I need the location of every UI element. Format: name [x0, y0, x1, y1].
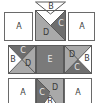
- label-d: D: [25, 60, 31, 68]
- label-c: C: [74, 64, 80, 72]
- label-a: A: [75, 89, 80, 97]
- label-c: C: [58, 20, 64, 28]
- square-a-bottom-right: A: [64, 78, 92, 103]
- hourglass-block-middle-right: D B C: [64, 45, 92, 74]
- label-b: B: [48, 3, 54, 11]
- square-a-bottom-left: A: [8, 78, 36, 103]
- label-e: E: [47, 56, 52, 64]
- label-b: B: [84, 55, 90, 63]
- label-c: C: [20, 47, 26, 55]
- label-b: B: [10, 56, 16, 64]
- square-a-top-left: A: [4, 12, 33, 41]
- label-a: A: [16, 23, 21, 31]
- label-a: A: [20, 89, 25, 97]
- hourglass-block-middle-left: C B D: [8, 45, 36, 74]
- label-d: D: [52, 84, 58, 92]
- label-d: D: [69, 51, 75, 59]
- label-b: B: [47, 98, 53, 103]
- square-a-top-right: A: [68, 12, 95, 41]
- triangle-block-top-center: B C D: [35, 1, 66, 41]
- square-e-center: E: [36, 45, 64, 74]
- label-c: C: [39, 89, 45, 97]
- triangle-block-bottom-center: C D B: [36, 78, 64, 103]
- label-d: D: [43, 29, 49, 37]
- label-a: A: [79, 23, 84, 31]
